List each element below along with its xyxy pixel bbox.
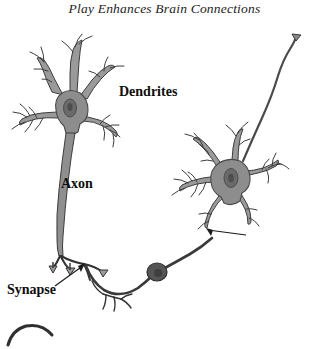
right-neuron-nucleolus: [228, 174, 234, 182]
label-axon: Axon: [61, 177, 93, 191]
right-neuron-axon-terminal: [292, 34, 301, 41]
upper-neuron-axon-terminals: [53, 256, 103, 280]
right-neuron-long-axon: [243, 37, 296, 161]
partial-neuron-bottom-left: [8, 325, 52, 345]
synaptic-boutons: [49, 266, 108, 277]
dendrite-trunk-upper-left: [37, 57, 63, 95]
synapse-arrowhead-right: [206, 228, 213, 236]
right-neuron: [172, 34, 301, 229]
dendrite-trunk-top: [70, 40, 82, 93]
neuron-diagram-figure: Play Enhances Brain Connections: [0, 0, 329, 349]
axon-node-core: [154, 269, 162, 277]
right-dendrite-top: [232, 129, 243, 161]
upper-neuron: [12, 34, 124, 280]
upper-neuron-nucleolus: [67, 103, 72, 111]
dendrite-trunk-upper-right: [80, 65, 115, 99]
label-dendrites: Dendrites: [119, 85, 177, 99]
dendrite-trunk-right: [83, 116, 118, 137]
dendrite-trunk-left: [19, 112, 58, 125]
upper-neuron-axon: [57, 133, 75, 256]
connecting-axon-right-segment: [163, 238, 212, 269]
connecting-axon-left-segment: [86, 266, 152, 294]
label-synapse: Synapse: [7, 283, 56, 297]
bouton-right: [99, 270, 108, 277]
synapse-leader-line-right: [206, 228, 246, 236]
